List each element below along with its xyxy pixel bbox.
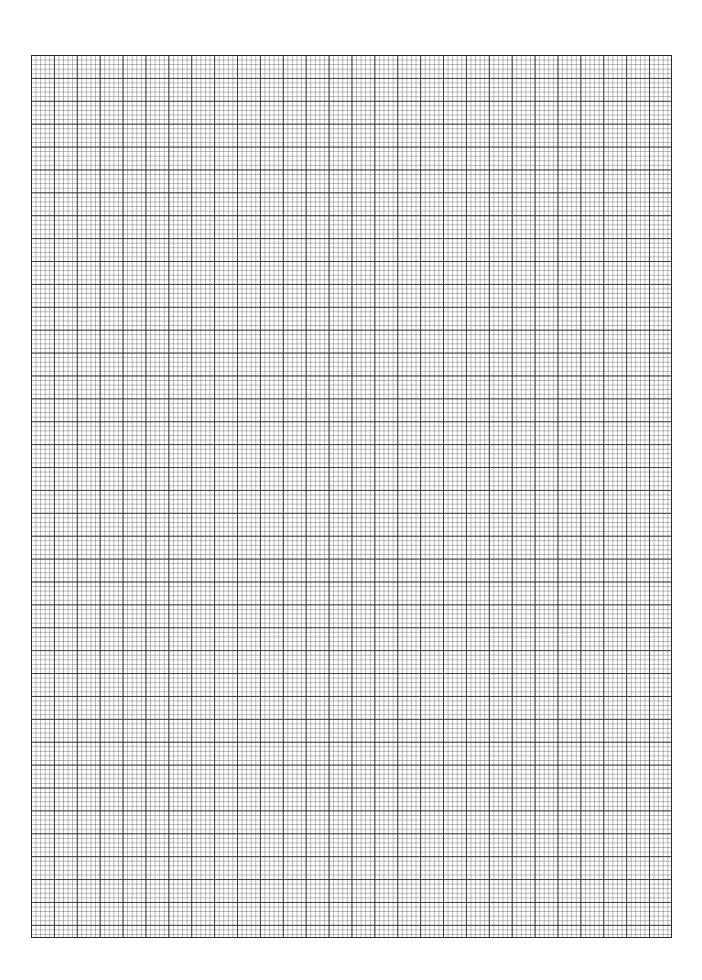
graph-paper-grid — [31, 55, 672, 938]
